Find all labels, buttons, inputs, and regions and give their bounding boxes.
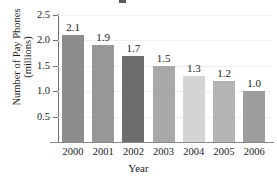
bar-value-label: 1.7 [116,43,150,54]
bar-value-label: 1.9 [86,32,120,43]
x-axis-tick-label: 2003 [147,146,181,157]
x-axis-line [50,142,274,143]
bar [62,35,84,142]
x-axis-tick-label: 2004 [177,146,211,157]
bar [92,45,114,142]
y-axis-tick-label-text: 1.5 [22,60,50,71]
bar [213,81,235,142]
y-axis-tick-label-text: 2.5 [22,9,50,20]
bar-value-label: 2.1 [56,22,90,33]
x-axis-tick-label: 2002 [116,146,150,157]
y-axis-tick-label-text: 2.0 [22,34,50,45]
bar [183,76,205,142]
top-edge-artifact [119,0,126,3]
pay-phones-bar-chart: Number of Pay Phones (millions) 0.51.01.… [0,0,277,183]
bar [122,56,144,142]
bar-value-label: 1.3 [177,63,211,74]
x-axis-tick-label: 2005 [207,146,241,157]
bar [243,91,265,142]
bar [153,66,175,142]
x-axis-tick-label: 2001 [86,146,120,157]
bar-value-label: 1.0 [237,78,271,89]
bar-value-label: 1.2 [207,68,241,79]
x-axis-tick-label: 2000 [56,146,90,157]
y-axis-tick-label-text: 1.0 [22,85,50,96]
bar-value-label: 1.5 [147,53,181,64]
x-axis-tick-label: 2006 [237,146,271,157]
x-axis-title: Year [0,162,277,174]
y-axis-tick-label-text: 0.5 [22,111,50,122]
